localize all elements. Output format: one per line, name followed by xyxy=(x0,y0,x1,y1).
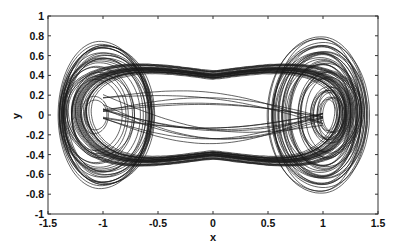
y-tick-label: -0.2 xyxy=(26,129,44,141)
phase-portrait-chart: -1.5-1-0.500.511.5 -1-0.8-0.6-0.4-0.200.… xyxy=(0,0,402,250)
y-tick-label: -0.4 xyxy=(26,149,44,161)
trajectory-lines xyxy=(58,37,369,193)
x-axis-label: x xyxy=(210,231,217,243)
y-tick-label: 0.6 xyxy=(29,50,44,62)
y-tick-label: -0.6 xyxy=(26,168,44,180)
y-tick-label: 0 xyxy=(38,109,44,121)
x-tick-label: 0.5 xyxy=(261,217,276,229)
x-tick-label: -1 xyxy=(98,217,107,229)
x-tick-label: 1 xyxy=(320,217,326,229)
y-tick-label: -0.8 xyxy=(26,188,44,200)
y-tick-label: 0.8 xyxy=(29,30,44,42)
x-tick-label: 0 xyxy=(210,217,216,229)
x-tick-label: 1.5 xyxy=(371,217,386,229)
y-tick-label: 0.4 xyxy=(29,69,44,81)
y-tick-label: -1 xyxy=(35,208,44,220)
x-tick-label: -0.5 xyxy=(149,217,167,229)
y-tick-label: 1 xyxy=(38,10,44,22)
y-tick-label: 0.2 xyxy=(29,89,44,101)
axes-frame xyxy=(48,16,378,214)
y-axis-label: y xyxy=(10,112,22,119)
